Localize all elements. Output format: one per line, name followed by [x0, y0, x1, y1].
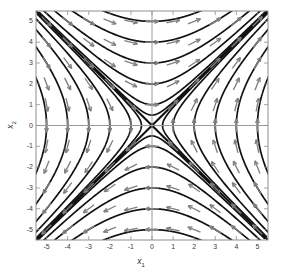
x-tick-label: 1 — [171, 243, 175, 251]
y-tick-label: -1 — [19, 142, 33, 150]
trajectory-curve — [119, 250, 184, 254]
y-tick-label: 5 — [19, 17, 33, 25]
x-tick-label: 2 — [192, 243, 196, 251]
x-tick-label: -1 — [128, 243, 134, 251]
y-tick-label: -5 — [19, 226, 33, 234]
y-tick-label: -3 — [19, 184, 33, 192]
y-tick-label: 1 — [19, 101, 33, 109]
y-tick-label: 4 — [19, 38, 33, 46]
x-axis-title-subscript: 1 — [141, 262, 144, 268]
trajectory-curve — [119, 0, 185, 1]
phase-portrait-canvas — [0, 0, 283, 273]
y-axis-title: x2 — [5, 121, 17, 129]
y-tick-label: 3 — [19, 59, 33, 67]
x-tick-label: -2 — [107, 243, 113, 251]
y-tick-label: 2 — [19, 80, 33, 88]
y-axis-title-subscript: 2 — [11, 121, 17, 124]
x-tick-label: 3 — [213, 243, 217, 251]
x-tick-label: 5 — [256, 243, 260, 251]
x-tick-label: 0 — [150, 243, 154, 251]
x-tick-label: -4 — [65, 243, 71, 251]
y-tick-label: -2 — [19, 163, 33, 171]
y-tick-label: -4 — [19, 205, 33, 213]
x-tick-label: 4 — [234, 243, 238, 251]
x-axis-title: x1 — [137, 256, 145, 268]
x-tick-label: -3 — [86, 243, 92, 251]
y-tick-label: 0 — [19, 122, 33, 130]
y-axis-title-symbol: x — [5, 125, 15, 129]
x-tick-label: -5 — [43, 243, 49, 251]
phase-portrait-figure: -5-4-3-2-1012345 -5-4-3-2-1012345 x1 x2 — [0, 0, 283, 273]
trajectory-curve — [279, 93, 283, 158]
